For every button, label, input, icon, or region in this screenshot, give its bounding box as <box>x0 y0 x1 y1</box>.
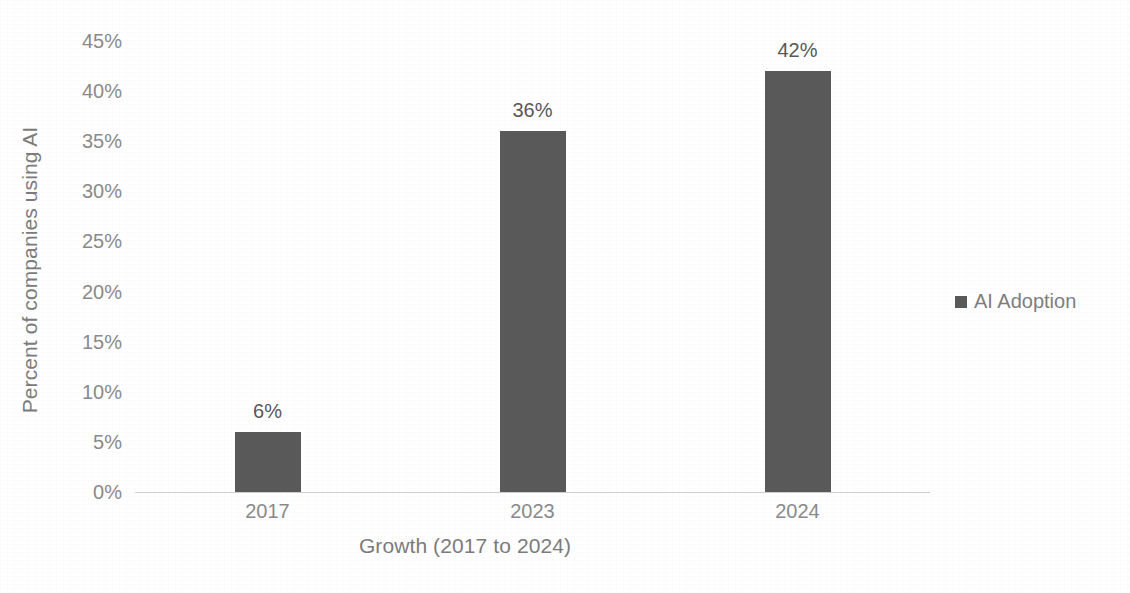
y-axis-tick-0: 0% <box>56 481 122 504</box>
legend: AI Adoption <box>955 290 1076 313</box>
y-axis-title: Percent of companies using AI <box>18 127 42 414</box>
y-axis-tick-30: 30% <box>56 180 122 203</box>
x-axis-tick-2017: 2017 <box>245 500 290 523</box>
y-axis-tick-labels: 45%40%35%30%25%20%15%10%5%0% <box>56 0 122 593</box>
bar-2017[interactable] <box>235 432 301 492</box>
x-axis-tick-2023: 2023 <box>510 500 555 523</box>
x-axis-tick-2024: 2024 <box>775 500 820 523</box>
bar-2024[interactable] <box>765 71 831 492</box>
y-axis-tick-15: 15% <box>56 330 122 353</box>
y-axis-tick-10: 10% <box>56 380 122 403</box>
y-axis-tick-40: 40% <box>56 80 122 103</box>
bar-chart: Percent of companies using AI 45%40%35%3… <box>0 0 1130 593</box>
x-axis-tick-labels: 201720232024 <box>135 500 930 530</box>
x-axis-baseline <box>135 492 930 493</box>
bar-value-label-2024: 42% <box>777 39 817 62</box>
plot-area: 6%36%42% <box>135 10 930 492</box>
y-axis-tick-25: 25% <box>56 230 122 253</box>
y-axis-tick-35: 35% <box>56 130 122 153</box>
y-axis-tick-20: 20% <box>56 280 122 303</box>
bar-value-label-2017: 6% <box>253 400 282 423</box>
legend-label-ai-adoption: AI Adoption <box>974 290 1076 313</box>
x-axis-title: Growth (2017 to 2024) <box>0 534 930 558</box>
legend-swatch-ai-adoption <box>955 296 967 308</box>
bar-value-label-2023: 36% <box>512 99 552 122</box>
bar-2023[interactable] <box>500 131 566 492</box>
y-axis-tick-5: 5% <box>56 430 122 453</box>
y-axis-tick-45: 45% <box>56 30 122 53</box>
